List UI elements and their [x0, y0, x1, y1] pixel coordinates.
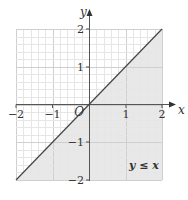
y-axis-label: y — [79, 5, 87, 19]
y-tick-label: 1 — [77, 61, 84, 74]
inequality-graph: −2 −1 1 2 2 1 −1 −2 O x y y ≤ x — [0, 0, 188, 200]
x-tick-label: −1 — [44, 108, 60, 121]
y-tick-label: −1 — [68, 136, 84, 149]
y-axis-arrow-icon — [87, 9, 93, 16]
origin-label: O — [74, 105, 84, 119]
x-tick-label: 1 — [123, 108, 130, 121]
x-tick-label: −2 — [8, 108, 24, 121]
y-tick-label: 2 — [77, 23, 84, 36]
x-axis-label: x — [178, 103, 185, 117]
y-tick-label: −2 — [68, 174, 84, 187]
region-label: y ≤ x — [128, 159, 159, 172]
x-tick-label: 2 — [159, 108, 166, 121]
x-axis-arrow-icon — [169, 102, 176, 108]
